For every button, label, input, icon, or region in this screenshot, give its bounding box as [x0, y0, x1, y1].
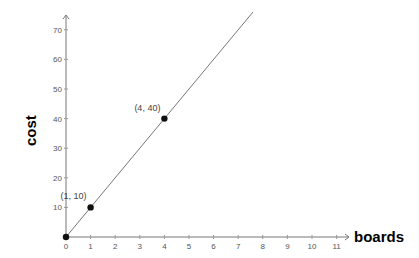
- axes: 0123456789101110203040506070: [53, 15, 349, 251]
- x-tick-label: 11: [332, 242, 341, 251]
- y-tick-label: 20: [53, 174, 62, 183]
- y-tick-label: 70: [53, 26, 62, 35]
- x-tick-label: 0: [64, 242, 69, 251]
- y-tick-label: 30: [53, 144, 62, 153]
- x-tick-label: 9: [285, 242, 290, 251]
- y-tick-label: 50: [53, 85, 62, 94]
- point-label: (4, 40): [134, 103, 160, 113]
- x-tick-label: 5: [187, 242, 192, 251]
- x-tick-label: 1: [88, 242, 93, 251]
- x-tick-label: 10: [308, 242, 317, 251]
- y-tick-label: 10: [53, 203, 62, 212]
- y-tick-label: 40: [53, 115, 62, 124]
- data-point: [161, 115, 167, 121]
- x-axis-title: boards: [354, 228, 404, 245]
- y-axis-title: cost: [22, 115, 39, 146]
- data-point: [63, 234, 69, 240]
- x-tick-label: 6: [211, 242, 216, 251]
- x-tick-label: 4: [162, 242, 167, 251]
- point-label: (1, 10): [61, 191, 87, 201]
- data-point: [87, 204, 93, 210]
- x-tick-label: 2: [113, 242, 118, 251]
- x-tick-label: 8: [261, 242, 266, 251]
- cost-line: [66, 12, 253, 237]
- line-chart: 0123456789101110203040506070 (1, 10)(4, …: [0, 0, 419, 258]
- y-tick-label: 60: [53, 55, 62, 64]
- x-tick-label: 7: [236, 242, 241, 251]
- data-points: (1, 10)(4, 40): [61, 103, 168, 241]
- x-tick-label: 3: [138, 242, 143, 251]
